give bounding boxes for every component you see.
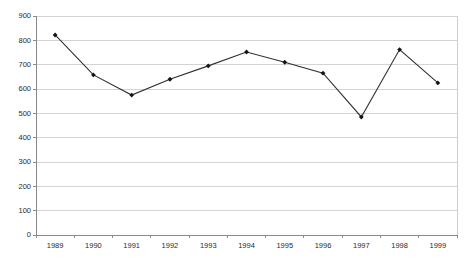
x-tick-label: 1994: [238, 241, 255, 250]
x-tick-labels: 1989199019911992199319941995199619971998…: [47, 241, 446, 250]
x-tick-label: 1995: [276, 241, 293, 250]
y-tick-labels: 0100200300400500600700800900: [18, 11, 31, 239]
y-tick-label: 100: [18, 206, 31, 215]
x-tick-label: 1989: [47, 241, 64, 250]
y-tick-label: 300: [18, 157, 31, 166]
y-tick-label: 200: [18, 182, 31, 191]
y-tick-label: 600: [18, 84, 31, 93]
x-tick-label: 1997: [353, 241, 370, 250]
x-tick-label: 1996: [315, 241, 332, 250]
y-tick-label: 800: [18, 36, 31, 45]
data-markers: [53, 33, 441, 120]
y-tick-label: 0: [27, 230, 31, 239]
data-point-marker: [244, 50, 249, 55]
y-tick-label: 700: [18, 60, 31, 69]
y-tick-label: 400: [18, 133, 31, 142]
line-chart: 0100200300400500600700800900 19891990199…: [0, 0, 472, 262]
x-tick-label: 1992: [162, 241, 179, 250]
y-tick-label: 900: [18, 11, 31, 20]
x-tick-label: 1990: [85, 241, 102, 250]
x-tick-label: 1991: [123, 241, 140, 250]
x-tick-label: 1993: [200, 241, 217, 250]
series-line: [55, 35, 438, 117]
x-tick-label: 1998: [391, 241, 408, 250]
y-tick-label: 500: [18, 109, 31, 118]
y-axis: [33, 16, 36, 235]
x-tick-label: 1999: [430, 241, 447, 250]
data-point-marker: [129, 93, 134, 98]
data-point-marker: [206, 63, 211, 68]
data-series: [55, 35, 438, 117]
data-point-marker: [168, 77, 173, 82]
data-point-marker: [282, 60, 287, 65]
chart-canvas: 0100200300400500600700800900 19891990199…: [0, 0, 472, 262]
gridlines: [36, 16, 457, 211]
x-axis: [36, 235, 457, 238]
